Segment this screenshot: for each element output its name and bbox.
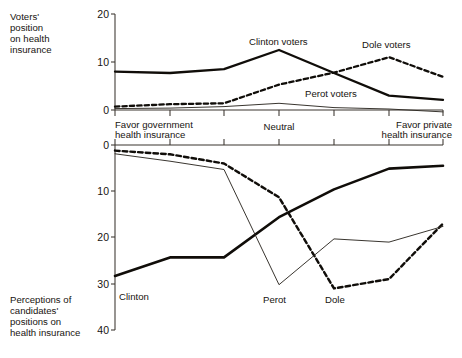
series-line-clinton-voters bbox=[115, 50, 443, 100]
y-axis-label-bottom-line-4: health insurance bbox=[10, 327, 80, 338]
series-line-perot bbox=[115, 154, 443, 285]
y-tick-label-20: 20 bbox=[97, 8, 109, 20]
y-axis-label-line-4: insurance bbox=[10, 44, 52, 55]
y-axis-label-line-2: position bbox=[10, 22, 43, 33]
y-axis-label-bottom-line-1: Perceptions of bbox=[10, 294, 72, 305]
x-category-label-favor-private: Favor private health insurance bbox=[382, 119, 452, 140]
panel-voters-position: Voters' position on health insurance 20 … bbox=[10, 8, 452, 140]
series-line-dole bbox=[115, 151, 443, 289]
x-category-label-neutral: Neutral bbox=[264, 121, 295, 132]
y-axis-label-line-1: Voters' bbox=[10, 11, 39, 22]
y-axis-label-bottom-line-3: positions on bbox=[10, 316, 61, 327]
two-panel-line-chart: Voters' position on health insurance 20 … bbox=[0, 0, 462, 358]
series-label-perot-voters: Perot voters bbox=[305, 88, 357, 99]
x-category-right-line-2: health insurance bbox=[382, 129, 452, 140]
y-axis-label-voters: Voters' position on health insurance bbox=[10, 11, 52, 55]
series-line-clinton bbox=[115, 166, 443, 276]
y-axis-label-perceptions: Perceptions of candidates' positions on … bbox=[10, 294, 80, 338]
y-tick-label-bottom-40: 40 bbox=[97, 324, 109, 336]
series-label-clinton-voters: Clinton voters bbox=[249, 36, 308, 47]
panel-perceptions-of-candidates: Perceptions of candidates' positions on … bbox=[10, 139, 443, 338]
x-category-left-line-2: health insurance bbox=[115, 129, 185, 140]
y-tick-label-bottom-0: 0 bbox=[103, 139, 109, 151]
series-line-dole-voters bbox=[115, 57, 443, 106]
y-tick-label-10: 10 bbox=[97, 56, 109, 68]
series-label-dole: Dole bbox=[325, 294, 345, 305]
y-tick-label-bottom-30: 30 bbox=[97, 278, 109, 290]
y-axis-label-line-3: on health bbox=[10, 33, 49, 44]
y-tick-label-bottom-20: 20 bbox=[97, 231, 109, 243]
y-tick-label-bottom-10: 10 bbox=[97, 185, 109, 197]
series-label-clinton: Clinton bbox=[119, 291, 149, 302]
figure-root: Voters' position on health insurance 20 … bbox=[0, 0, 462, 358]
y-axis-label-bottom-line-2: candidates' bbox=[10, 305, 58, 316]
series-label-dole-voters: Dole voters bbox=[362, 39, 411, 50]
series-label-perot: Perot bbox=[263, 294, 286, 305]
x-category-label-favor-government: Favor government health insurance bbox=[115, 119, 193, 140]
y-tick-label-0: 0 bbox=[103, 104, 109, 116]
